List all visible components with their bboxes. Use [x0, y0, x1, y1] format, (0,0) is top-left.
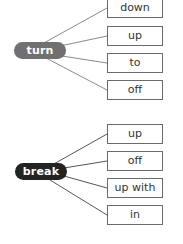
connector-break-off: [64, 161, 107, 168]
particle-box-break-off: off: [107, 151, 163, 171]
verb-node-turn: turn: [14, 42, 66, 59]
particle-box-turn-down: down: [107, 0, 163, 18]
particle-box-turn-off: off: [107, 80, 163, 100]
connector-turn-off: [46, 58, 107, 90]
verb-node-break: break: [15, 163, 67, 180]
connector-break-upwith: [64, 176, 107, 188]
connector-break-up: [52, 134, 107, 165]
particle-box-break-up-with: up with: [107, 178, 163, 198]
connector-turn-up: [60, 36, 107, 46]
particle-box-turn-up: up: [107, 26, 163, 46]
particle-box-break-up: up: [107, 124, 163, 144]
connector-turn-to: [62, 56, 107, 63]
particle-box-break-in: in: [107, 205, 163, 225]
particle-box-turn-to: to: [107, 53, 163, 73]
connector-turn-down: [42, 8, 107, 44]
